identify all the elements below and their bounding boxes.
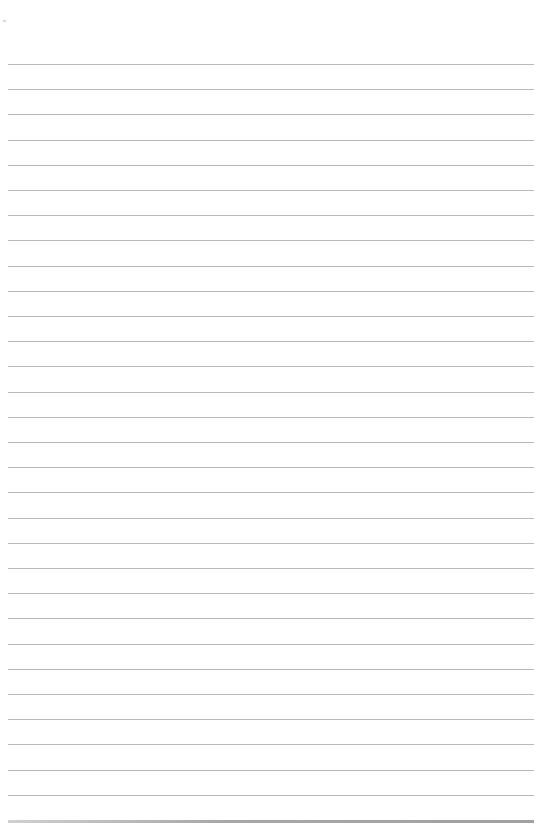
ruled-line	[8, 820, 534, 823]
ruled-line	[8, 190, 534, 191]
ruled-line	[8, 618, 534, 619]
ruled-line	[8, 669, 534, 670]
ruled-line	[8, 392, 534, 393]
ruled-line	[8, 366, 534, 367]
ruled-line	[8, 770, 534, 771]
ruled-line	[8, 215, 534, 216]
ruled-line	[8, 442, 534, 443]
ruled-line	[8, 543, 534, 544]
ruled-line	[8, 64, 534, 65]
ruled-line	[8, 593, 534, 594]
ruled-line	[8, 744, 534, 745]
ruled-line	[8, 165, 534, 166]
ruled-line	[8, 568, 534, 569]
ruled-line	[8, 89, 534, 90]
ruled-line	[8, 518, 534, 519]
ruled-line	[8, 341, 534, 342]
ruled-line	[8, 719, 534, 720]
ruled-line	[8, 266, 534, 267]
lined-paper-sheet	[0, 0, 541, 829]
ruled-line	[8, 694, 534, 695]
corner-mark	[3, 20, 6, 22]
ruled-line	[8, 467, 534, 468]
ruled-line	[8, 140, 534, 141]
ruled-line	[8, 795, 534, 796]
ruled-line	[8, 291, 534, 292]
ruled-line	[8, 240, 534, 241]
ruled-line	[8, 417, 534, 418]
ruled-line	[8, 644, 534, 645]
ruled-line	[8, 316, 534, 317]
ruled-line	[8, 492, 534, 493]
ruled-line	[8, 114, 534, 115]
